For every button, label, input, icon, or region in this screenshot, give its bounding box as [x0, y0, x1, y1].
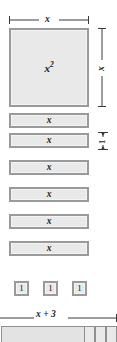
tile-x-bar-label: x: [47, 163, 52, 173]
tile-x-bar: x: [9, 241, 89, 256]
bottom-dimension-label: x + 3: [36, 310, 56, 320]
tile-unit-label: 1: [48, 284, 53, 293]
tile-unit: 1: [72, 281, 87, 296]
unit-height-dimension-label-wrap: 1: [97, 134, 109, 148]
unit-height-dimension-label: 1: [98, 140, 107, 144]
bottom-cropped-figure: [0, 326, 117, 341]
bottom-figure-column: [106, 326, 117, 342]
bottom-dimension-rule: [0, 312, 117, 322]
tile-unit-label: 1: [19, 284, 24, 293]
bottom-figure-main-region: [1, 326, 85, 342]
tile-x-bar: x: [9, 214, 89, 229]
tile-x-bar: x: [9, 160, 89, 175]
tile-x-bar-label: x: [47, 217, 52, 227]
tile-x-bar-label: x: [47, 244, 52, 254]
top-dimension-label: x: [45, 15, 50, 25]
tile-x-bar: x: [9, 187, 89, 202]
tile-unit: 1: [43, 281, 58, 296]
tile-x-bar-label: x: [47, 190, 52, 200]
tile-x-bar-label: x: [47, 116, 52, 126]
right-dimension-label: x: [97, 66, 107, 71]
tile-x-bar: x: [9, 113, 89, 128]
tile-unit: 1: [14, 281, 29, 296]
tile-x-squared-label: x2: [44, 61, 53, 74]
tile-unit-label: 1: [77, 284, 82, 293]
tile-x-squared-exponent: 2: [50, 60, 54, 69]
right-dimension-label-wrap: x: [96, 57, 108, 79]
tile-x-squared: x2: [9, 28, 89, 107]
bottom-figure-column: [95, 326, 106, 342]
tile-x-bar: x: [9, 133, 89, 148]
bottom-figure-column: [84, 326, 95, 342]
tile-x-bar-label: x: [47, 136, 52, 146]
